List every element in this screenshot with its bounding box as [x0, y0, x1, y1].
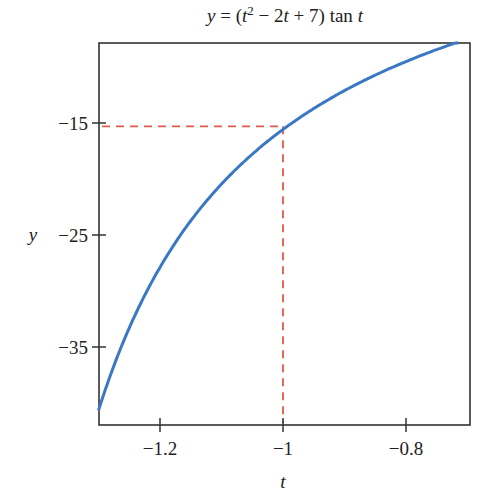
function-curve	[99, 43, 459, 411]
chart-canvas: y = (t2 − 2t + 7) tan t −1.2−1−0.8 −15−2…	[0, 0, 491, 498]
x-tick-label: −1	[273, 438, 293, 459]
plot-frame	[99, 43, 470, 425]
x-tick-label: −0.8	[389, 438, 423, 459]
title-y: y	[205, 5, 216, 26]
y-tick-label: −15	[58, 113, 88, 134]
y-tick-label: −35	[58, 337, 88, 358]
y-axis-label: y	[27, 224, 38, 245]
chart-title: y = (t2 − 2t + 7) tan t	[205, 3, 364, 28]
x-axis-ticks: −1.2−1−0.8	[143, 418, 423, 459]
x-tick-label: −1.2	[143, 438, 177, 459]
y-tick-label: −25	[58, 225, 88, 246]
dashed-guides	[102, 126, 283, 423]
x-axis-label: t	[280, 471, 286, 492]
